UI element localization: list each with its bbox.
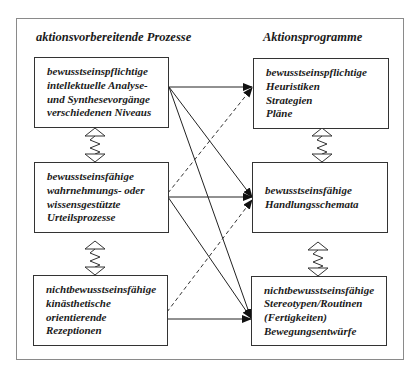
box-line: intellektuelle Analyse-	[47, 79, 168, 93]
box-line: bewusstseinsfähige	[47, 170, 168, 184]
box-line: Heuristiken	[266, 80, 388, 94]
box-line: bewusstseinspflichtige	[266, 66, 388, 80]
box-line: verschiedenen Niveaus	[47, 106, 168, 120]
box-line: orientierende	[46, 311, 167, 325]
box-line: Stereotypen/Routinen	[264, 297, 386, 311]
box-line: Pläne	[266, 107, 388, 121]
box-line: bewusstseinspflichtige	[47, 65, 168, 79]
box-line: (Fertigkeiten)	[264, 311, 386, 325]
box-line: Rezeptionen	[46, 324, 167, 338]
box-line: Handlungsschemata	[265, 198, 387, 212]
solid-arrows	[167, 87, 252, 319]
box-line: Urteilsprozesse	[47, 211, 168, 225]
right-box-routines: nichtbewusstseinsfähige Stereotypen/Rout…	[251, 276, 387, 346]
box-line: nichtbewusstseinsfähige	[264, 284, 386, 298]
left-box-conscious-analysis: bewusstseinspflichtige intellektuelle An…	[34, 57, 169, 128]
right-box-heuristics: bewusstseinspflichtige Heuristiken Strat…	[253, 58, 389, 129]
box-line: wissensgestützte	[47, 198, 168, 212]
right-box-action-schemata: bewusstseinsfähige Handlungsschemata	[252, 162, 388, 233]
box-line: wahrnehmungs- oder	[47, 184, 168, 198]
left-box-kinesthetic-receptions: nichtbewusstseinsfähige kinästhetische o…	[33, 275, 168, 346]
box-line: Bewegungsentwürfe	[264, 325, 386, 339]
box-line: kinästhetische	[46, 297, 167, 311]
box-line: bewusstseinsfähige	[265, 184, 387, 198]
box-line: und Synthesevorgänge	[47, 93, 168, 107]
box-line: nichtbewusstseinsfähige	[46, 283, 167, 297]
left-box-judgement-processes: bewusstseinsfähige wahrnehmungs- oder wi…	[34, 162, 169, 233]
box-line: Strategien	[266, 94, 388, 108]
